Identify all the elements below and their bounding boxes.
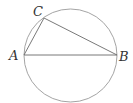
label-c: C bbox=[33, 4, 43, 19]
circle bbox=[24, 9, 117, 102]
circle-triangle-diagram: A B C bbox=[0, 0, 133, 103]
segment-ac bbox=[24, 18, 44, 55]
label-a: A bbox=[8, 48, 18, 63]
segment-cb bbox=[44, 18, 117, 55]
label-b: B bbox=[118, 49, 129, 64]
